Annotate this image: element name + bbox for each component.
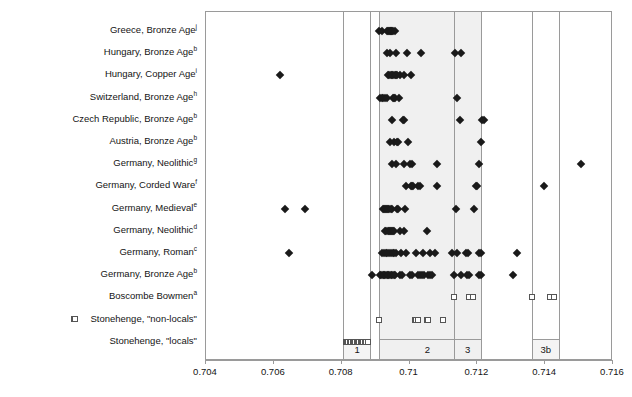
row-label: Germany, Bronze Ageb bbox=[101, 269, 197, 279]
row-label-column: Greece, Bronze AgejHungary, Bronze AgebH… bbox=[0, 0, 205, 360]
row-label: Germany, Romanc bbox=[119, 247, 197, 257]
data-point-square bbox=[425, 317, 431, 323]
row-label: Germany, Medievale bbox=[112, 203, 197, 213]
plot-area: 1233b bbox=[205, 11, 612, 360]
row-label: Germany, Neolithicg bbox=[113, 158, 197, 168]
data-point-square bbox=[440, 317, 446, 323]
x-tick-label: 0.716 bbox=[600, 366, 624, 377]
data-point-square bbox=[376, 317, 382, 323]
data-point-square bbox=[551, 294, 557, 300]
data-point-diamond bbox=[509, 271, 517, 279]
data-point-square bbox=[365, 339, 371, 345]
data-point-square bbox=[451, 294, 457, 300]
x-tick bbox=[273, 360, 274, 364]
row-label: Germany, Corded Waref bbox=[95, 180, 197, 190]
x-tick-label: 0.704 bbox=[193, 366, 217, 377]
x-tick bbox=[544, 360, 545, 364]
x-tick bbox=[205, 360, 206, 364]
x-tick bbox=[409, 360, 410, 364]
x-tick-label: 0.71 bbox=[399, 366, 418, 377]
row-label: Hungary, Copper Agei bbox=[105, 69, 197, 79]
band-label-3: 3 bbox=[454, 339, 482, 359]
data-point-diamond bbox=[577, 160, 585, 168]
row-label: Germany, Neolithicd bbox=[113, 225, 197, 235]
x-tick-label: 0.706 bbox=[261, 366, 285, 377]
band-label-3b: 3b bbox=[532, 339, 560, 359]
band-1 bbox=[343, 12, 371, 359]
x-tick-label: 0.714 bbox=[532, 366, 556, 377]
data-point-diamond bbox=[276, 71, 284, 79]
row-label: Stonehenge, "non-locals" bbox=[90, 314, 197, 324]
data-point-diamond bbox=[285, 249, 293, 257]
x-tick bbox=[612, 360, 613, 364]
data-point-diamond bbox=[281, 204, 289, 212]
row-label: Greece, Bronze Agej bbox=[110, 25, 197, 35]
x-tick-label: 0.708 bbox=[329, 366, 353, 377]
row-label: Czech Republic, Bronze Ageb bbox=[72, 114, 197, 124]
data-point-square bbox=[470, 294, 476, 300]
strontium-isotope-chart: Greece, Bronze AgejHungary, Bronze AgebH… bbox=[0, 0, 632, 397]
row-label: Switzerland, Bronze Ageh bbox=[90, 92, 197, 102]
x-tick bbox=[476, 360, 477, 364]
data-point-diamond bbox=[301, 204, 309, 212]
row-label: Boscombe Bowmena bbox=[109, 291, 197, 301]
row-label: Stonehenge, "locals" bbox=[109, 336, 197, 346]
row-label: Hungary, Bronze Ageb bbox=[104, 47, 197, 57]
row-label: Austria, Bronze Ageb bbox=[109, 136, 197, 146]
data-point-square bbox=[529, 294, 535, 300]
data-point-square bbox=[72, 316, 78, 322]
data-point-square bbox=[415, 317, 421, 323]
data-point-diamond bbox=[512, 249, 520, 257]
x-tick bbox=[341, 360, 342, 364]
x-tick-label: 0.712 bbox=[464, 366, 488, 377]
